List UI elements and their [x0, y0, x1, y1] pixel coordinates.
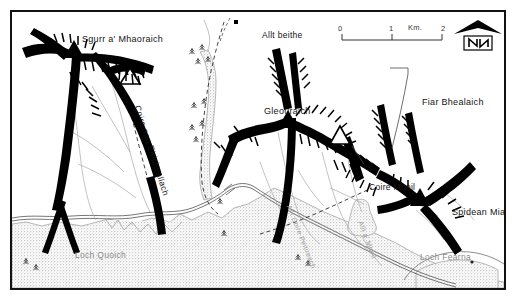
scale-tick-1: 1: [389, 24, 393, 33]
ridge-spidean-mialach: [376, 104, 476, 255]
ridge-south-main: [52, 56, 81, 211]
ridge-gleouraich-sw-spur: [212, 138, 238, 188]
fiar-bhealaich-leader: [390, 68, 408, 148]
map-figure: Sgurr a' Mhaoraich Gleouraich Fiar Bheal…: [0, 0, 516, 302]
peak-label-spidean-mialach: Spidean Mialach: [452, 207, 506, 218]
scale-unit-label: Km.: [408, 23, 422, 32]
scale-tick-2: 2: [441, 24, 445, 33]
ridge-gleouraich-east-arm: [290, 120, 380, 176]
water-label-loch-quoich: Loch Quoich: [75, 250, 126, 261]
stream-north-burn: [204, 20, 210, 50]
ridge-gleouraich-north-spur-2: [289, 52, 302, 109]
north-arrow-graphic: [454, 20, 502, 50]
allt-beithe-marker: [234, 20, 238, 24]
water-label-loch-fearna: Loch Fearna: [420, 252, 471, 262]
map-border-frame: Sgurr a' Mhaoraich Gleouraich Fiar Bheal…: [10, 10, 506, 290]
feature-label-allt-beithe: Allt beithe: [262, 30, 303, 40]
scale-bar-graphic: [342, 34, 442, 40]
feature-label-coire-mheil: Coire Mheil: [369, 182, 415, 192]
peak-label-gleouraich: Gleouraich: [264, 106, 311, 116]
map-drawing: [12, 12, 504, 288]
scale-tick-0: 0: [338, 24, 342, 33]
ridge-spidean-sw-arm: [377, 195, 416, 214]
ridge-gleouraich-north-spur: [272, 48, 292, 110]
peak-label-sgurr-a-mhaoraich: Sgurr a' Mhaoraich: [82, 34, 163, 44]
stream-coire-mheil: [330, 188, 364, 204]
peak-label-fiar-bhealaich: Fiar Bhealaich: [422, 97, 484, 107]
